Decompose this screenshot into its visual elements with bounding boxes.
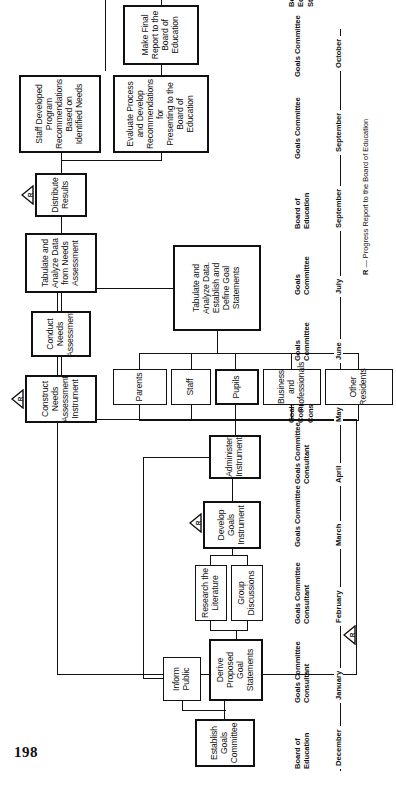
r-marker-construct-needs: R — [11, 389, 24, 409]
r-marker-distribute-results: R — [21, 185, 34, 205]
box-conduct-needs-assessment: Conduct Needs Assessment — [31, 311, 91, 357]
box-inform-public: Inform Public — [163, 657, 201, 701]
connector-inform-to-administer — [143, 457, 144, 679]
connector-pupils-out — [235, 353, 236, 369]
box-tabulate-analyze-from-needs-assessment: Tabulate and Analyze Data from Needs Ass… — [25, 233, 97, 293]
connector-into-evaluate — [161, 153, 162, 161]
timeline-month-september: September — [334, 186, 343, 231]
connector-administer-drop — [143, 457, 209, 458]
actor-board-of-education-sep: Board of Education — [293, 193, 312, 229]
box-group-discussions: Group Discussions — [231, 565, 263, 621]
connector-loop-top — [105, 0, 106, 71]
legend-dash: — — [361, 260, 370, 267]
timeline-month-may: May — [334, 404, 343, 425]
connector-distribute-to-staffdev — [61, 153, 62, 173]
connector-parents-out — [139, 353, 140, 369]
box-parents: Parents — [113, 369, 167, 405]
box-administer-instrument: Administer Instrument — [209, 435, 261, 479]
connector-derive-out — [236, 631, 237, 639]
actor-goals-committee-sep2: Goals Committee — [293, 97, 302, 159]
connector-into-tabulate — [217, 330, 218, 354]
r-marker-label: R — [343, 625, 356, 645]
box-derive-proposed-goal-statements: Derive Proposed Goal Statements — [209, 639, 263, 701]
box-establish-goals-committee: Establish Goals Committee — [195, 719, 255, 767]
box-distribute-results: Distribute Results — [35, 173, 87, 217]
timeline-month-january: January — [334, 668, 343, 703]
connector-research-out — [210, 555, 211, 565]
box-make-final-report: Make Final Report to the Board of Educat… — [123, 5, 199, 65]
r-marker-develop-goals: R — [189, 513, 202, 533]
timeline-month-february: February — [334, 588, 343, 627]
connector-to-group — [247, 621, 248, 631]
box-evaluate-process-and-develop-recommendations: Evaluate Process and Develop Recommendat… — [113, 75, 209, 153]
r-marker-label: R — [189, 513, 202, 533]
rotated-flowchart: December January February March April Ma… — [43, 11, 373, 771]
actor-goals-committee-mar: Goals Committee — [293, 485, 302, 547]
timeline-month-april: April — [334, 463, 343, 486]
box-construct-needs-assessment-instrument: Construct Needs Assessment Instrument — [25, 375, 97, 423]
box-pupils: Pupils — [215, 369, 259, 405]
connector-to-research — [210, 621, 211, 631]
connector-collect-bus — [139, 353, 359, 354]
box-research-the-literature: Research the Literature — [195, 565, 227, 621]
actor-goals-committee-consultant-jan: Goals Committee Consultant — [293, 641, 312, 703]
box-tabulate-analyze-establish-define: Tabulate and Analyze Data. Establish and… — [173, 245, 261, 331]
legend-symbol: R — [361, 270, 370, 275]
connector-residents-out — [358, 353, 359, 369]
actor-goals-committee-consultant-feb: Goals Committee Consultant — [293, 562, 312, 624]
actor-board-of-education-dec: Board of Education — [293, 733, 312, 769]
timeline-month-july: July — [334, 276, 343, 297]
timeline-month-june: June — [334, 339, 343, 363]
r-marker-label: R — [21, 185, 34, 205]
connector-tabulate2-to-distribute — [61, 217, 62, 233]
box-business-and-professionals: Business and Professionals — [263, 369, 321, 405]
connector-staffdev-spine — [61, 160, 161, 161]
connector-develop-to-administer — [232, 479, 233, 501]
box-develop-goals-instrument: Develop Goals Instrument — [203, 501, 261, 549]
legend: R — Progress Report to the Board of Educ… — [361, 119, 370, 275]
connector-wrap-left — [57, 674, 357, 675]
box-staff: Staff — [171, 369, 211, 405]
actor-board-of-education-staff: Board of Education Staff — [287, 0, 315, 7]
connector-into-construct — [97, 419, 357, 420]
timeline-month-september-2: September — [334, 110, 343, 155]
timeline-month-december: December — [334, 726, 343, 769]
actor-goals-committee-jul: Goals Committee — [293, 256, 312, 295]
connector-evaluate-to-report — [161, 65, 162, 75]
actor-goals-committee-consultant-apr: Goals Committee Consultant — [293, 422, 312, 484]
figure-canvas: December January February March April Ma… — [0, 0, 396, 798]
timeline-month-march: March — [334, 521, 343, 549]
connector-wrap-bottom — [356, 419, 357, 675]
connector-conduct-to-tabulate2 — [61, 293, 62, 311]
connector-into-develop — [232, 548, 233, 556]
connector-derive-split — [210, 630, 248, 631]
connector-group-out — [247, 555, 248, 565]
connector-administer-out — [235, 421, 236, 435]
box-staff-developed-program-recommendations: Staff Developed Program Recommendations … — [19, 75, 101, 153]
actor-goals-committee-oct: Goals Committee — [293, 15, 302, 77]
connector-establish-to-inform — [182, 701, 183, 711]
r-marker-label: R — [11, 389, 24, 409]
connector-establish-riser — [182, 710, 226, 711]
box-other-residents: Other Residents — [325, 369, 393, 405]
connector-staff-out — [191, 353, 192, 369]
connector-bus-to-residents — [358, 405, 359, 421]
legend-text: Progress Report to the Board of Educatio… — [361, 119, 370, 258]
connector-inform-riser — [143, 678, 165, 679]
timeline-month-october: October — [334, 36, 343, 71]
connector-construct-to-conduct — [61, 357, 62, 375]
connector-merge-to-develop — [210, 555, 248, 556]
actor-goals-committee-jun: Goals Committee — [293, 322, 312, 361]
r-marker-december: R — [343, 625, 356, 645]
